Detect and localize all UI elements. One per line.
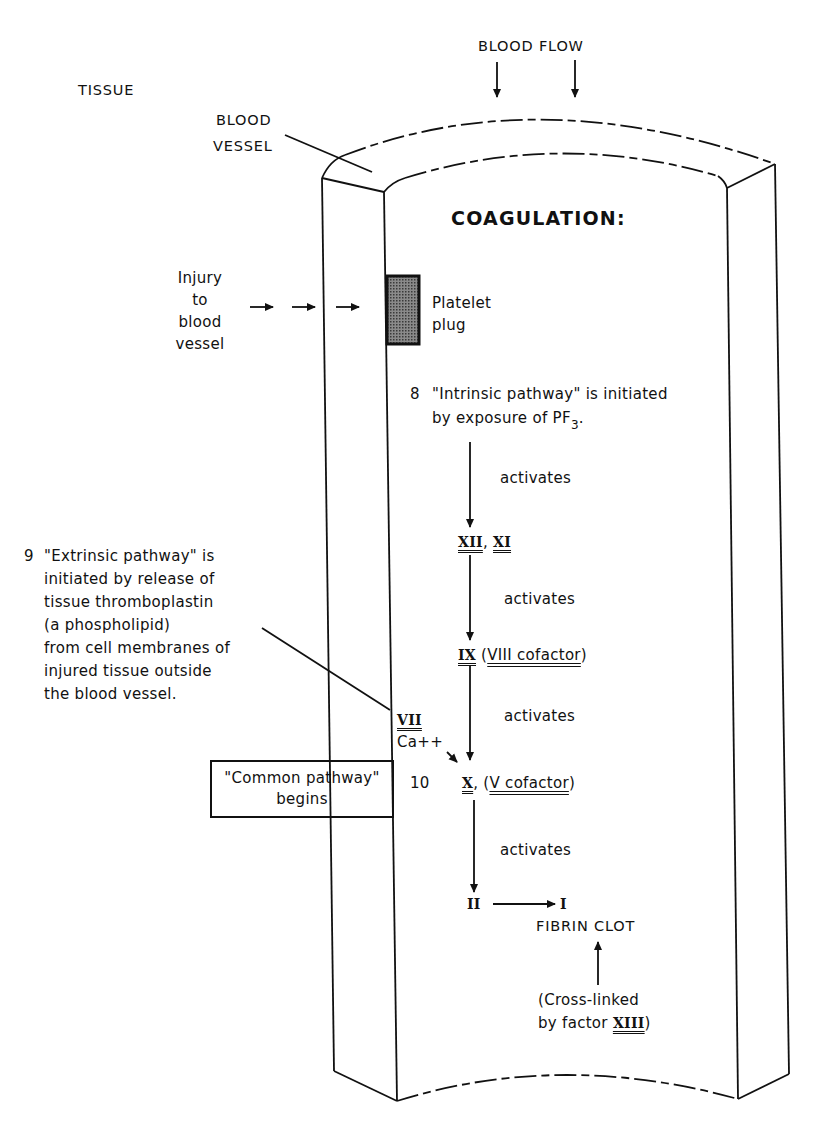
extrinsic-line1: "Extrinsic pathway" is — [44, 546, 215, 566]
injury-label-line1: Injury — [170, 268, 230, 288]
blood-vessel-label-line1: BLOOD — [216, 110, 272, 130]
factor-xiii: XIII — [613, 1015, 645, 1031]
factor-x: X — [462, 775, 473, 791]
cross-linked-line2: by factor XIII) — [538, 1013, 651, 1033]
blood-flow-label: BLOOD FLOW — [478, 36, 584, 56]
factor-ix-group: IX (VIII cofactor) — [458, 645, 587, 665]
factor-x-group: X, (V cofactor) — [462, 773, 575, 793]
pf3-subscript: 3 — [571, 418, 579, 432]
platelet-plug — [387, 276, 419, 344]
factor-ii: II — [467, 894, 481, 914]
common-pathway-box: "Common pathway" begins — [210, 760, 394, 818]
factor-xii: XII — [458, 534, 483, 550]
injury-label-line2: to — [170, 290, 230, 310]
common-pathway-line2: begins — [212, 789, 392, 809]
activates-label-1: activates — [500, 468, 571, 488]
extrinsic-line3: tissue thromboplastin — [44, 592, 213, 612]
vessel-outer-left-edge — [322, 178, 334, 1071]
intrinsic-line1: "Intrinsic pathway" is initiated — [432, 384, 668, 404]
factor-xii-xi: XII, XI — [458, 532, 511, 552]
blood-vessel-label-line2: VESSEL — [213, 136, 273, 156]
intrinsic-line2: by exposure of PF3. — [432, 408, 584, 435]
diagram-title: COAGULATION: — [451, 208, 626, 228]
extrinsic-step-number: 9 — [24, 546, 34, 566]
intrinsic-line2-text: by exposure of PF — [432, 409, 571, 427]
intrinsic-step-number: 8 — [410, 384, 420, 404]
tissue-label: TISSUE — [78, 80, 134, 100]
activates-label-2: activates — [504, 589, 575, 609]
factor-xi: XI — [493, 534, 511, 550]
injury-label-line3: blood — [170, 312, 230, 332]
activates-label-4: activates — [500, 840, 571, 860]
cross-linked-line1: (Cross-linked — [538, 990, 639, 1010]
cross-linked-prefix: by factor — [538, 1014, 613, 1032]
intrinsic-line2-suffix: . — [579, 409, 584, 427]
factor-ix: IX — [458, 647, 476, 663]
factor-i: I — [560, 894, 567, 914]
extrinsic-line7: the blood vessel. — [44, 684, 177, 704]
platelet-plug-label-line2: plug — [432, 315, 466, 335]
extrinsic-line4: (a phospholipid) — [44, 615, 170, 635]
factor-vii-label: VII — [397, 712, 422, 728]
calcium-label: Ca++ — [397, 732, 443, 752]
step-10-number: 10 — [410, 773, 430, 793]
extrinsic-line6: injured tissue outside — [44, 661, 212, 681]
vessel-inner-right-edge — [727, 188, 738, 1099]
factor-v-cofactor: V cofactor — [489, 774, 568, 792]
vessel-outer-right-edge — [775, 164, 789, 1074]
factor-viii-cofactor: VIII cofactor — [487, 646, 581, 664]
cross-linked-suffix: ) — [645, 1014, 651, 1032]
calcium-arrow — [447, 752, 457, 762]
extrinsic-line2: initiated by release of — [44, 569, 214, 589]
activates-label-3: activates — [504, 706, 575, 726]
common-pathway-line1: "Common pathway" — [212, 768, 392, 788]
fibrin-clot-label: FIBRIN CLOT — [536, 916, 635, 936]
factor-vii: VII — [397, 710, 422, 730]
injury-label-line4: vessel — [170, 334, 230, 354]
extrinsic-pointer — [262, 628, 390, 710]
coagulation-diagram: TISSUE BLOOD VESSEL BLOOD FLOW COAGULATI… — [0, 0, 818, 1122]
platelet-plug-label-line1: Platelet — [432, 293, 491, 313]
extrinsic-line5: from cell membranes of — [44, 638, 230, 658]
